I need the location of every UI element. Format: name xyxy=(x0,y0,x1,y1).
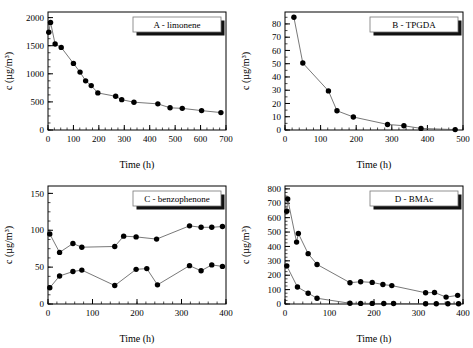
panel-d-y-tick-label: 400 xyxy=(268,242,282,252)
panel-d-series-1-marker xyxy=(284,263,289,268)
panel-d-series-1-marker xyxy=(391,301,396,306)
panel-a-series-0-marker xyxy=(218,110,223,115)
panel-c-x-tick-label: 200 xyxy=(130,308,144,318)
panel-b-y-tick-label: 40 xyxy=(272,72,282,82)
panel-b-series-0-marker xyxy=(300,60,305,65)
panel-d-series-0-marker xyxy=(443,294,448,299)
panel-a-x-tick-label: 0 xyxy=(46,134,51,144)
chart-panel-d: 01002003004000100200300400500600700800Ti… xyxy=(237,174,473,348)
panel-c-series-1-marker xyxy=(47,285,52,290)
panel-b-y-tick-label: 20 xyxy=(272,99,282,109)
panel-d-series-0-marker xyxy=(284,208,289,213)
panel-b-y-tick-label: 50 xyxy=(272,59,282,69)
panel-d-series-0-marker xyxy=(370,280,375,285)
panel-c-x-axis-title: Time (h) xyxy=(120,333,155,345)
panel-c-series-1-marker xyxy=(209,262,214,267)
panel-a-series-0-marker xyxy=(46,30,51,35)
panel-c-series-1-marker xyxy=(70,269,75,274)
panel-b-series-0-marker xyxy=(291,15,296,20)
panel-d-legend-label: D - BMAc xyxy=(395,194,434,204)
panel-d-series-0-marker xyxy=(432,290,437,295)
panel-b-svg: 010020030040050001020304050607080Time (h… xyxy=(237,0,473,174)
panel-d-series-0-marker xyxy=(305,251,310,256)
chart-panel-a: 01002003004005006007000500100015002000Ti… xyxy=(0,0,236,174)
panel-a-y-tick-label: 1500 xyxy=(26,41,45,51)
panel-b-x-axis-title: Time (h) xyxy=(357,159,392,171)
panel-b-legend-label: B - TPGDA xyxy=(392,20,436,30)
panel-a-series-0-marker xyxy=(119,97,124,102)
chart-panel-c: 0100200300400050100150Time (h)c (µg/m³)C… xyxy=(0,174,236,348)
panel-a-svg: 01002003004005006007000500100015002000Ti… xyxy=(0,0,236,174)
panel-c-series-0-marker xyxy=(79,245,84,250)
panel-a-series-0-marker xyxy=(95,90,100,95)
panel-a-series-0-marker xyxy=(199,108,204,113)
panel-c-series-0-marker xyxy=(121,233,126,238)
panel-d-series-0-marker xyxy=(296,231,301,236)
panel-c-x-tick-label: 400 xyxy=(219,308,233,318)
panel-d-series-0-marker xyxy=(380,282,385,287)
panel-d-series-0-marker xyxy=(423,290,428,295)
panel-b-x-tick-label: 400 xyxy=(421,134,435,144)
panel-a-series-0-marker xyxy=(167,105,172,110)
figure-container: 01002003004005006007000500100015002000Ti… xyxy=(0,0,473,348)
panel-a-series-0-marker xyxy=(83,78,88,83)
panel-a-series-0-marker xyxy=(59,45,64,50)
panel-c-series-1-marker xyxy=(144,266,149,271)
panel-d-y-tick-label: 800 xyxy=(268,184,282,194)
panel-d-x-tick-label: 0 xyxy=(283,308,288,318)
panel-d-x-tick-label: 200 xyxy=(367,308,381,318)
panel-a-series-0-marker xyxy=(48,20,53,25)
panel-a-x-tick-label: 200 xyxy=(92,134,106,144)
panel-b-series-0-marker xyxy=(326,88,331,93)
panel-d-y-tick-label: 100 xyxy=(268,285,282,295)
panel-a-x-axis-title: Time (h) xyxy=(120,159,155,171)
panel-d-series-1-marker xyxy=(370,301,375,306)
panel-d-y-axis-title: c (µg/m³) xyxy=(240,226,252,264)
panel-d-series-1-marker xyxy=(358,301,363,306)
panel-d-series-0-marker xyxy=(358,279,363,284)
panel-c-series-1-marker xyxy=(112,283,117,288)
panel-d-series-0-marker xyxy=(294,239,299,244)
panel-d-series-1-marker xyxy=(314,296,319,301)
panel-d-series-1-marker xyxy=(347,301,352,306)
panel-a-series-0-marker xyxy=(113,94,118,99)
panel-d-series-0-marker xyxy=(347,280,352,285)
panel-a-y-tick-label: 1000 xyxy=(26,69,45,79)
panel-b-y-tick-label: 70 xyxy=(272,32,282,42)
panel-c-series-0-marker xyxy=(133,234,138,239)
panel-c-series-1-marker xyxy=(198,268,203,273)
panel-a-x-tick-label: 300 xyxy=(118,134,132,144)
panel-d-y-tick-label: 0 xyxy=(277,299,282,309)
panel-c-series-0-marker xyxy=(154,236,159,241)
panel-c-series-0-marker xyxy=(220,224,225,229)
panel-a-series-0-marker xyxy=(131,99,136,104)
panel-c-series-0-marker xyxy=(70,241,75,246)
panel-a-series-0-line xyxy=(49,22,221,112)
panel-a-series-0-marker xyxy=(71,61,76,66)
panel-a-x-tick-label: 500 xyxy=(168,134,182,144)
panel-d-y-tick-label: 300 xyxy=(268,256,282,266)
panel-d-series-1-marker xyxy=(305,291,310,296)
panel-c-series-1-marker xyxy=(220,264,225,269)
panel-d-x-axis-title: Time (h) xyxy=(357,333,392,345)
panel-b-y-tick-label: 60 xyxy=(272,46,282,56)
panel-b-y-tick-label: 30 xyxy=(272,85,282,95)
panel-b-x-tick-label: 500 xyxy=(456,134,470,144)
panel-c-series-0-marker xyxy=(209,225,214,230)
panel-a-x-tick-label: 700 xyxy=(219,134,233,144)
panel-b-x-tick-label: 200 xyxy=(349,134,363,144)
panel-c-x-tick-label: 300 xyxy=(175,308,189,318)
panel-c-series-0-marker xyxy=(47,231,52,236)
panel-b-x-tick-label: 100 xyxy=(314,134,328,144)
panel-c-y-axis-title: c (µg/m³) xyxy=(3,226,15,264)
panel-d-y-tick-label: 700 xyxy=(268,198,282,208)
panel-c-series-0-marker xyxy=(198,225,203,230)
panel-a-y-axis-title: c (µg/m³) xyxy=(3,52,15,90)
panel-b-y-tick-label: 80 xyxy=(272,19,282,29)
panel-b-series-0-marker xyxy=(401,123,406,128)
panel-d-svg: 01002003004000100200300400500600700800Ti… xyxy=(237,174,473,348)
panel-c-y-tick-label: 0 xyxy=(40,299,45,309)
panel-c-x-tick-label: 100 xyxy=(86,308,100,318)
panel-c-x-tick-label: 0 xyxy=(46,308,51,318)
panel-a-series-0-marker xyxy=(155,101,160,106)
